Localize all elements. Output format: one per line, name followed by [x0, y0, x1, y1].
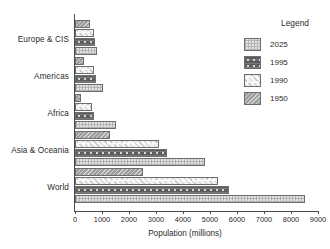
- legend-swatch-1995: [244, 56, 261, 69]
- category-label: Americas: [34, 71, 69, 80]
- x-axis-line: [74, 211, 319, 212]
- bar-1990: [75, 140, 159, 148]
- x-tick: [183, 211, 184, 214]
- bar-1995: [75, 38, 95, 46]
- x-tick-label: 4000: [175, 215, 191, 224]
- bar-2025: [75, 158, 205, 166]
- x-tick-label: 8000: [283, 215, 299, 224]
- bar-1990: [75, 29, 94, 37]
- bar-1995: [75, 149, 167, 157]
- x-tick-label: 2000: [121, 215, 137, 224]
- legend-swatch-2025: [244, 38, 261, 51]
- legend-swatch-1950: [244, 92, 261, 105]
- x-tick: [264, 211, 265, 214]
- x-tick-label: 5000: [202, 215, 218, 224]
- bar-1990: [75, 103, 92, 111]
- x-tick-label: 9000: [310, 215, 326, 224]
- category-label: Asia & Oceania: [11, 145, 69, 154]
- bar-1950: [75, 94, 81, 102]
- x-tick: [102, 211, 103, 214]
- legend-entry: 2025: [244, 35, 330, 53]
- x-axis-title: Population (millions): [0, 229, 330, 238]
- bar-1995: [75, 75, 96, 83]
- population-bar-chart: Europe & CISAmericasAfricaAsia & Oceania…: [0, 0, 330, 249]
- legend-label: 1995: [270, 58, 288, 67]
- legend-entries: 2025199519901950: [244, 35, 330, 107]
- bar-2025: [75, 84, 103, 92]
- legend: Legend 2025199519901950: [244, 18, 330, 107]
- x-tick-label: 0: [73, 215, 77, 224]
- legend-label: 2025: [270, 40, 288, 49]
- legend-title: Legend: [260, 18, 330, 28]
- x-tick-label: 3000: [148, 215, 164, 224]
- x-tick-label: 1000: [94, 215, 110, 224]
- bar-1995: [75, 112, 94, 120]
- bar-1950: [75, 131, 110, 139]
- legend-entry: 1990: [244, 71, 330, 89]
- bar-1950: [75, 168, 143, 176]
- x-tick: [318, 211, 319, 214]
- bar-1990: [75, 177, 218, 185]
- legend-swatch-1990: [244, 74, 261, 87]
- bar-2025: [75, 47, 97, 55]
- x-tick: [129, 211, 130, 214]
- bar-1950: [75, 57, 84, 65]
- category-label: Europe & CIS: [18, 34, 69, 43]
- x-tick: [291, 211, 292, 214]
- bar-2025: [75, 195, 305, 203]
- x-tick: [237, 211, 238, 214]
- x-tick: [156, 211, 157, 214]
- bar-1950: [75, 20, 90, 28]
- legend-label: 1990: [270, 76, 288, 85]
- category-group: Asia & Oceania: [75, 131, 318, 168]
- bar-2025: [75, 121, 116, 129]
- x-tick: [210, 211, 211, 214]
- category-group: World: [75, 168, 318, 205]
- legend-label: 1950: [270, 94, 288, 103]
- category-label: World: [47, 182, 69, 191]
- legend-entry: 1950: [244, 89, 330, 107]
- bar-1995: [75, 186, 229, 194]
- legend-entry: 1995: [244, 53, 330, 71]
- bar-1990: [75, 66, 94, 74]
- x-tick: [75, 211, 76, 214]
- category-label: Africa: [47, 108, 69, 117]
- x-tick-label: 6000: [229, 215, 245, 224]
- x-tick-label: 7000: [256, 215, 272, 224]
